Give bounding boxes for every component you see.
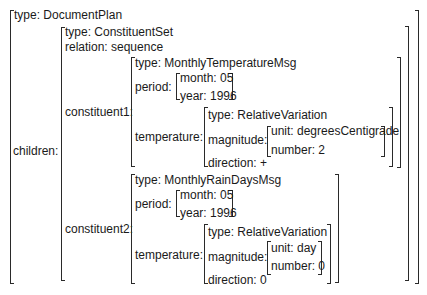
constituent2-period-label: period: <box>135 197 172 211</box>
constituent2-left-bracket <box>131 174 135 284</box>
constituent2-direction: direction: 0 <box>208 273 267 287</box>
constituent1-temperature-label: temperature: <box>135 130 203 144</box>
constituent1-month: month: 05 <box>180 71 233 85</box>
constituent2-temperature-label: temperature: <box>135 248 203 262</box>
constituent1-label: constituent1: <box>65 105 133 119</box>
relation-line: relation: sequence <box>65 40 163 54</box>
constituent-set-right-bracket <box>405 26 409 281</box>
constituent2-unit: unit: day <box>271 241 316 255</box>
constituent2-label: constituent2: <box>65 222 133 236</box>
constituent1-type: type: MonthlyTemperatureMsg <box>135 56 296 70</box>
constituent1-left-bracket <box>131 57 135 167</box>
constituent-set-type: type: ConstituentSet <box>65 25 173 39</box>
root-right-bracket <box>415 10 419 284</box>
constituent1-year: year: 1996 <box>180 89 237 103</box>
children-label: children: <box>13 144 58 158</box>
constituent-set-left-bracket <box>61 27 65 281</box>
constituent2-variation-right-bracket <box>327 224 331 284</box>
constituent1-magnitude-label: magnitude: <box>208 133 267 147</box>
root-type: type: DocumentPlan <box>14 8 122 22</box>
constituent1-direction: direction: + <box>208 156 267 170</box>
constituent1-period-label: period: <box>135 80 172 94</box>
constituent2-right-bracket <box>335 174 339 283</box>
constituent1-variation-type: type: RelativeVariation <box>208 108 327 122</box>
constituent2-variation-type: type: RelativeVariation <box>208 225 327 239</box>
constituent2-year: year: 1996 <box>180 206 237 220</box>
constituent1-number: number: 2 <box>271 143 325 157</box>
constituent1-right-bracket <box>397 57 401 168</box>
constituent2-magnitude-label: magnitude: <box>208 250 267 264</box>
constituent1-unit: unit: degreesCentigrade <box>271 124 399 138</box>
constituent2-number: number: 0 <box>271 259 325 273</box>
constituent2-month: month: 05 <box>180 188 233 202</box>
constituent2-type: type: MonthlyRainDaysMsg <box>135 173 281 187</box>
